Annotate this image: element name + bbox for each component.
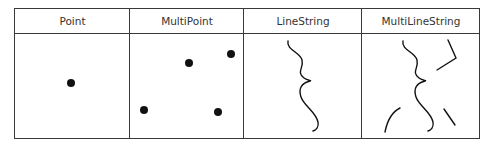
linestring-geometry [288,41,318,131]
point-geometry [67,79,75,87]
multilinestring-geometry [385,40,456,132]
multipoint-geometry [140,50,235,116]
geometry-illustrations [0,0,493,148]
